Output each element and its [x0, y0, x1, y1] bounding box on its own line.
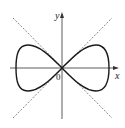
origin-label: 0 — [56, 72, 61, 82]
figure: y x 0 — [0, 0, 125, 128]
y-axis-label: y — [54, 10, 60, 21]
y-axis-arrow-icon — [60, 12, 64, 18]
x-axis-label: x — [114, 70, 120, 81]
